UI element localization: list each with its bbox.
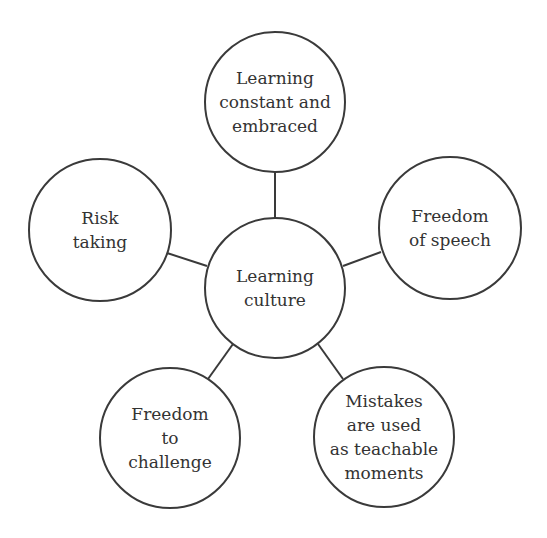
connector-left	[167, 253, 207, 266]
node-label-center: Learning culture	[205, 218, 345, 358]
node-label-top: Learning constant and embraced	[205, 32, 345, 172]
node-label-bottom-right: Mistakes are used as teachable moments	[314, 367, 454, 507]
connector-right	[343, 252, 381, 266]
node-label-bottom-left: Freedom to challenge	[100, 368, 240, 508]
node-label-left: Risk taking	[29, 159, 171, 301]
learning-culture-diagram: Learning culture Learning constant and e…	[0, 0, 547, 538]
node-label-right: Freedom of speech	[379, 157, 521, 299]
